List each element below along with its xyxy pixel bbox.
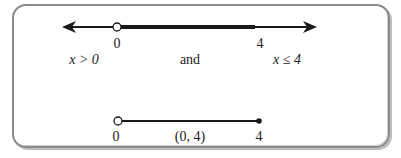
bottom-tick-label-0: 0	[113, 130, 120, 144]
interval-notation-label: (0, 4)	[175, 130, 205, 144]
open-circle-icon	[113, 23, 121, 31]
closed-dot-icon	[256, 118, 262, 124]
open-circle-icon	[114, 117, 122, 125]
condition-right: x ≤ 4	[273, 53, 301, 67]
condition-left: x > 0	[69, 53, 99, 67]
top-number-line	[62, 21, 317, 33]
top-tick-label-0: 0	[114, 37, 121, 51]
top-tick-label-4: 4	[257, 37, 264, 51]
condition-connector: and	[180, 53, 200, 67]
bottom-tick-label-4: 4	[256, 130, 263, 144]
bottom-number-line	[114, 117, 262, 125]
